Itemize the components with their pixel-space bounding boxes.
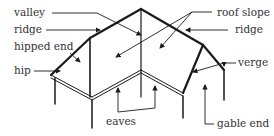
label-verge: verge xyxy=(237,56,268,68)
label-roof-slope: roof slope xyxy=(217,6,270,18)
label-valley: valley xyxy=(13,6,45,18)
label-gable-end: gable end xyxy=(217,117,270,129)
label-ridge-left: ridge xyxy=(14,23,42,35)
ridge-right-line xyxy=(141,9,203,45)
verge-left-line xyxy=(183,45,203,93)
label-eaves: eaves xyxy=(106,115,136,127)
leader-lines xyxy=(34,12,236,124)
label-hip: hip xyxy=(14,64,31,76)
roof-diagram: valley ridge hipped end hip roof slope r… xyxy=(0,0,274,136)
label-hipped-end: hipped end xyxy=(14,40,74,52)
label-ridge-right: ridge xyxy=(235,23,263,35)
